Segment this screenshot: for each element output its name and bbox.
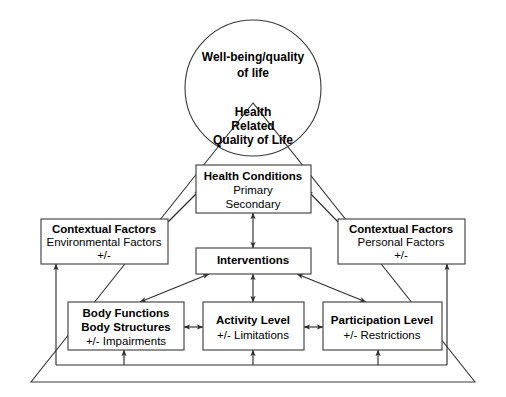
connector-personal-to-health	[307, 190, 338, 222]
circle-text-group: Well-being/quality of life Health Relate…	[202, 50, 305, 147]
hrqol-line1: Health	[235, 105, 272, 119]
health-conditions-line3: Secondary	[226, 198, 281, 210]
wellbeing-line1: Well-being/quality	[202, 50, 305, 64]
contextual-env-title: Contextual Factors	[52, 223, 156, 235]
diagram-canvas: Health Conditions Primary Secondary Cont…	[0, 0, 506, 397]
body-functions-title-line2: Body Structures	[81, 321, 170, 333]
box-interventions[interactable]: Interventions	[196, 248, 311, 274]
contextual-personal-title: Contextual Factors	[349, 223, 453, 235]
box-health-conditions[interactable]: Health Conditions Primary Secondary	[196, 165, 311, 213]
connector-env-to-health	[168, 190, 200, 222]
box-contextual-environmental[interactable]: Contextual Factors Environmental Factors…	[41, 219, 168, 264]
connector-interventions-participation	[297, 274, 366, 302]
participation-level-title: Participation Level	[331, 314, 433, 326]
contextual-env-line2: Environmental Factors	[46, 236, 161, 248]
hrqol-line2: Related	[231, 119, 274, 133]
box-participation-level[interactable]: Participation Level +/- Restrictions	[323, 302, 442, 350]
box-contextual-personal[interactable]: Contextual Factors Personal Factors +/-	[338, 219, 465, 264]
wellbeing-line2: of life	[237, 66, 269, 80]
body-functions-line3: +/- Impairments	[86, 335, 166, 347]
box-body-functions[interactable]: Body Functions Body Structures +/- Impai…	[68, 302, 184, 350]
model-diagram: Health Conditions Primary Secondary Cont…	[0, 0, 506, 397]
activity-level-title: Activity Level	[216, 314, 290, 326]
interventions-title: Interventions	[217, 254, 289, 266]
contextual-personal-line3: +/-	[394, 249, 408, 261]
participation-level-line2: +/- Restrictions	[343, 329, 420, 341]
hrqol-line3: Quality of Life	[213, 133, 293, 147]
box-activity-level[interactable]: Activity Level +/- Limitations	[203, 302, 304, 350]
contextual-personal-line2: Personal Factors	[358, 236, 445, 248]
contextual-env-line3: +/-	[97, 249, 111, 261]
connector-interventions-body	[140, 274, 209, 302]
activity-level-line2: +/- Limitations	[217, 329, 289, 341]
body-functions-title-line1: Body Functions	[83, 307, 170, 319]
health-conditions-title: Health Conditions	[204, 170, 302, 182]
health-conditions-line2: Primary	[233, 184, 273, 196]
